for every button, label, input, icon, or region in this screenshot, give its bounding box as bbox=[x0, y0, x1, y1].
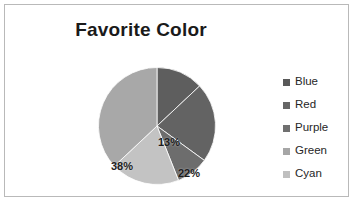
legend-item-blue[interactable]: Blue bbox=[283, 71, 349, 93]
legend-swatch-purple-icon bbox=[283, 125, 290, 132]
legend-label-blue: Blue bbox=[295, 76, 318, 88]
legend-swatch-cyan-icon bbox=[283, 171, 290, 178]
legend-label-cyan: Cyan bbox=[295, 168, 322, 180]
slice-label-green: 38% bbox=[111, 160, 133, 172]
chart-title: Favorite Color bbox=[5, 19, 277, 41]
plot-area: 13% 22% 9% 19% 38% bbox=[17, 57, 275, 195]
slice-label-blue: 13% bbox=[158, 136, 180, 148]
legend-swatch-green-icon bbox=[283, 148, 290, 155]
chart-container: Favorite Color 13% 22% 9% 19% 38% Blue R… bbox=[4, 4, 349, 197]
legend-label-red: Red bbox=[295, 99, 316, 111]
legend-item-purple[interactable]: Purple bbox=[283, 117, 349, 139]
legend-item-cyan[interactable]: Cyan bbox=[283, 163, 349, 185]
legend-swatch-blue-icon bbox=[283, 79, 290, 86]
slice-label-red: 22% bbox=[178, 167, 200, 179]
chart-legend: Blue Red Purple Green Cyan bbox=[283, 71, 349, 186]
legend-swatch-red-icon bbox=[283, 102, 290, 109]
legend-label-purple: Purple bbox=[295, 122, 328, 134]
legend-item-green[interactable]: Green bbox=[283, 140, 349, 162]
legend-label-green: Green bbox=[295, 145, 327, 157]
legend-item-red[interactable]: Red bbox=[283, 94, 349, 116]
